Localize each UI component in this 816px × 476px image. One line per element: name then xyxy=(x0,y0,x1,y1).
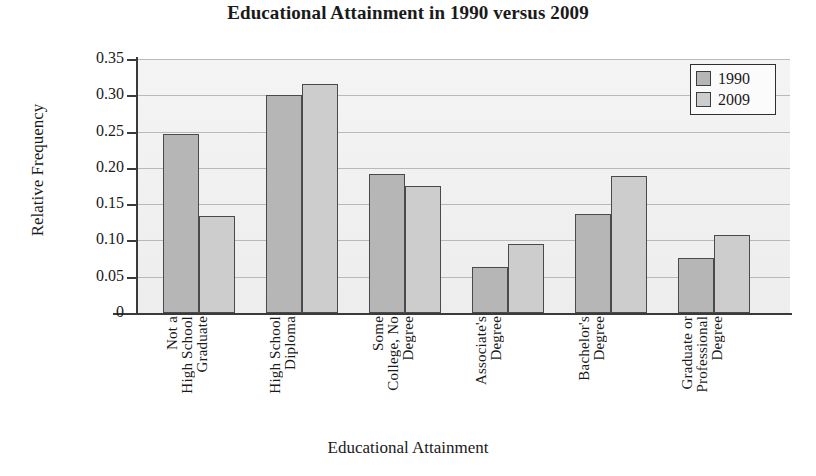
bar xyxy=(163,134,199,313)
bar xyxy=(472,267,508,313)
x-axis-label-line: Not a xyxy=(165,316,180,350)
bar xyxy=(508,244,544,313)
y-axis-tick xyxy=(127,204,137,206)
y-axis-tick-label: 0.25 xyxy=(72,122,124,140)
x-axis-label-line: Degree xyxy=(710,316,725,361)
y-axis-tick xyxy=(127,240,137,242)
x-axis-label-line: Degree xyxy=(401,316,416,361)
x-axis-title: Educational Attainment xyxy=(0,438,816,458)
y-axis-tick-label: 0.10 xyxy=(72,230,124,248)
gridline xyxy=(137,168,790,169)
x-axis-label-line: Degree xyxy=(489,316,504,361)
bar xyxy=(714,235,750,313)
y-axis-tick xyxy=(127,277,137,279)
x-axis-label-line: Some xyxy=(371,316,386,351)
legend-swatch-2009 xyxy=(696,92,711,107)
y-axis-tick xyxy=(127,168,137,170)
gridline xyxy=(137,59,790,60)
y-axis-tick-label: 0.05 xyxy=(72,267,124,285)
legend-label-1990: 1990 xyxy=(718,71,750,87)
x-axis-label-line: Professional xyxy=(695,316,710,393)
y-axis-title: Relative Frequency xyxy=(28,60,48,280)
bar-chart: Educational Attainment in 1990 versus 20… xyxy=(0,0,816,476)
x-axis-label-line: Graduate or xyxy=(680,316,695,389)
y-axis-tick-label: 0.15 xyxy=(72,194,124,212)
y-axis-tick xyxy=(127,95,137,97)
x-axis-category-label: High SchoolDiploma xyxy=(268,316,298,436)
x-axis-category-label: Not aHigh SchoolGraduate xyxy=(165,316,210,436)
bar xyxy=(678,258,714,313)
legend-swatch-1990 xyxy=(696,71,711,86)
bar xyxy=(405,186,441,313)
y-axis-tick xyxy=(127,132,137,134)
legend: 1990 2009 xyxy=(690,64,776,115)
gridline xyxy=(137,204,790,205)
x-axis-label-line: Diploma xyxy=(283,316,298,370)
x-axis-category-label: SomeCollege, NoDegree xyxy=(371,316,416,436)
x-axis-label-line: High School xyxy=(180,316,195,394)
x-axis-label-line: College, No xyxy=(386,316,401,391)
y-axis-tick xyxy=(127,313,137,315)
gridline xyxy=(137,132,790,133)
legend-item: 1990 xyxy=(696,68,770,89)
bar xyxy=(199,216,235,313)
y-axis-tick-label: 0.20 xyxy=(72,158,124,176)
bar xyxy=(369,174,405,313)
bar xyxy=(575,214,611,313)
legend-label-2009: 2009 xyxy=(718,92,750,108)
x-axis-category-label: Graduate orProfessionalDegree xyxy=(680,316,725,436)
x-axis-label-line: Associate's xyxy=(474,316,489,385)
x-axis-category-label: Bachelor'sDegree xyxy=(577,316,607,436)
bar xyxy=(611,176,647,313)
x-axis-label-line: Bachelor's xyxy=(577,316,592,381)
x-axis-category-labels: Not aHigh SchoolGraduateHigh SchoolDiplo… xyxy=(0,316,816,436)
y-axis-tick xyxy=(127,59,137,61)
bar xyxy=(266,95,302,313)
y-axis-tick-label: 0.35 xyxy=(72,49,124,67)
x-axis-category-label: Associate'sDegree xyxy=(474,316,504,436)
x-axis-label-line: Graduate xyxy=(195,316,210,373)
x-axis-label-line: High School xyxy=(268,316,283,394)
legend-item: 2009 xyxy=(696,89,770,110)
x-axis-line xyxy=(113,313,792,315)
bar xyxy=(302,84,338,313)
x-axis-label-line: Degree xyxy=(592,316,607,361)
y-axis-tick-label: 0.30 xyxy=(72,85,124,103)
